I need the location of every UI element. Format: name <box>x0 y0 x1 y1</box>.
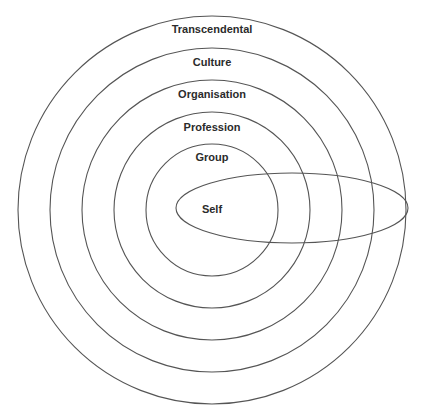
label-self: Self <box>202 203 223 215</box>
label-culture: Culture <box>193 56 232 68</box>
concentric-diagram: Transcendental Culture Organisation Prof… <box>0 0 422 420</box>
label-transcendental: Transcendental <box>172 23 253 35</box>
label-organisation: Organisation <box>178 88 246 100</box>
label-profession: Profession <box>184 121 241 133</box>
label-group: Group <box>196 151 229 163</box>
